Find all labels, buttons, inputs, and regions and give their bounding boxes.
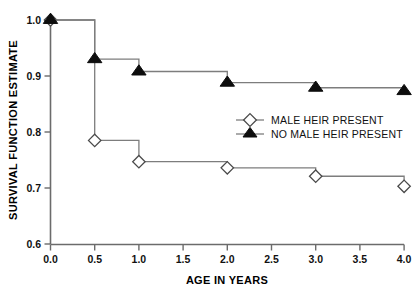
filled-triangle-marker xyxy=(88,52,102,62)
y-tick-label-0.6: 0.6 xyxy=(26,238,41,250)
x-tick-label-0.0: 0.0 xyxy=(43,253,58,265)
x-tick-label-1.0: 1.0 xyxy=(132,253,147,265)
open-diamond-icon xyxy=(244,114,257,127)
survival-curve-chart: 1.0 0.9 0.8 0.7 0.6 SURVIVAL FUNCTION ES… xyxy=(0,0,417,298)
x-axis-title: AGE IN YEARS xyxy=(186,274,268,286)
legend-entry-no-male-heir-present: NO MALE HEIR PRESENT xyxy=(236,127,403,140)
y-tick-label-0.8: 0.8 xyxy=(26,126,41,138)
filled-triangle-marker xyxy=(397,84,411,94)
open-diamond-marker xyxy=(133,155,145,167)
legend-label-1: NO MALE HEIR PRESENT xyxy=(271,128,403,140)
x-tick-label-0.5: 0.5 xyxy=(87,253,102,265)
y-tick-label-0.7: 0.7 xyxy=(26,182,41,194)
open-diamond-marker xyxy=(310,170,322,182)
y-tick-label-0.9: 0.9 xyxy=(26,70,41,82)
filled-triangle-marker xyxy=(132,65,146,75)
x-axis-ticks xyxy=(51,245,405,251)
filled-triangle-icon xyxy=(243,127,257,137)
x-tick-label-1.5: 1.5 xyxy=(176,253,191,265)
open-diamond-marker xyxy=(221,162,233,174)
x-tick-label-3.5: 3.5 xyxy=(353,253,368,265)
open-diamond-marker xyxy=(89,134,101,146)
x-tick-label-3.0: 3.0 xyxy=(308,253,323,265)
y-axis-tick-labels: 1.0 0.9 0.8 0.7 0.6 xyxy=(26,14,41,250)
chart-canvas: 1.0 0.9 0.8 0.7 0.6 SURVIVAL FUNCTION ES… xyxy=(0,0,417,298)
x-tick-label-2.0: 2.0 xyxy=(220,253,235,265)
x-axis-tick-labels: 0.0 0.5 1.0 1.5 2.0 2.5 3.0 3.5 4.0 xyxy=(43,253,411,265)
open-diamond-marker xyxy=(398,180,410,192)
legend-label-0: MALE HEIR PRESENT xyxy=(271,114,384,126)
legend-entry-male-heir-present: MALE HEIR PRESENT xyxy=(236,114,384,127)
filled-triangle-marker xyxy=(220,76,234,86)
y-axis: 1.0 0.9 0.8 0.7 0.6 SURVIVAL FUNCTION ES… xyxy=(7,14,51,250)
series-layer xyxy=(43,13,411,192)
y-axis-title: SURVIVAL FUNCTION ESTIMATE xyxy=(7,40,19,220)
series-no-male-heir-present xyxy=(43,13,411,94)
x-tick-label-2.5: 2.5 xyxy=(264,253,279,265)
x-axis: 0.0 0.5 1.0 1.5 2.0 2.5 3.0 3.5 4.0 AGE … xyxy=(43,245,411,287)
y-axis-ticks xyxy=(45,20,51,244)
legend: MALE HEIR PRESENT NO MALE HEIR PRESENT xyxy=(236,114,403,140)
x-tick-label-4.0: 4.0 xyxy=(397,253,412,265)
y-tick-label-1.0: 1.0 xyxy=(26,14,41,26)
series-male-heir-present xyxy=(44,14,410,193)
